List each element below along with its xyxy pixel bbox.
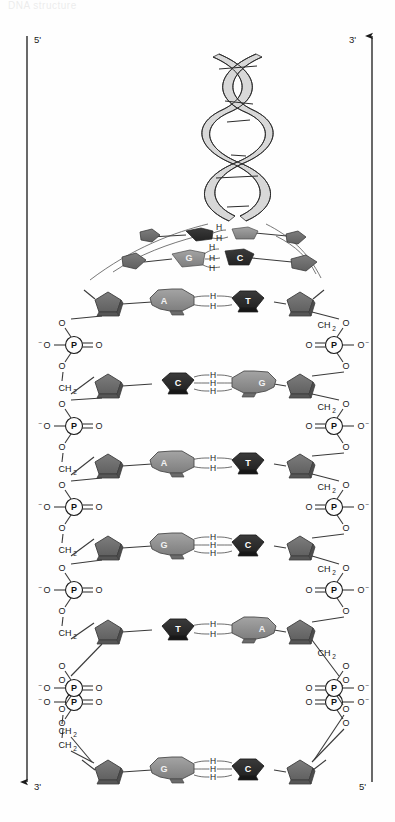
hbond-curve	[194, 375, 208, 377]
sugar-bevel	[289, 780, 311, 784]
sugar-bevel	[97, 780, 119, 784]
glycosidic-bond	[274, 630, 286, 632]
methylene-subscript: 2	[73, 745, 77, 752]
base-bevel	[168, 390, 188, 394]
phosphate-bond	[337, 573, 343, 582]
oxygen-anion-label: O	[43, 683, 50, 693]
dna-double-helix	[90, 54, 321, 280]
oxygen-label: O	[58, 563, 65, 573]
oxygen-label: O	[305, 585, 312, 595]
phosphate-group-right: CH2P−OOOO	[305, 556, 369, 622]
anion-sign: −	[366, 501, 370, 508]
phosphate-bond	[337, 409, 343, 418]
backbone-bond	[71, 398, 102, 400]
base-bevel	[170, 555, 184, 559]
base-letter: A	[161, 458, 168, 468]
glycosidic-bond	[274, 464, 286, 466]
base-letter: A	[161, 296, 168, 306]
oxygen-label: O	[95, 697, 102, 707]
oxygen-anion-label: O	[43, 421, 50, 431]
hbond-curve	[218, 296, 232, 297]
phosphate-label: P	[71, 502, 77, 512]
hydrogen-bond-label: H	[210, 386, 216, 396]
anion-sign: −	[39, 339, 43, 346]
hbond-curve	[218, 375, 232, 377]
oxygen-anion-label: O	[357, 421, 364, 431]
base-letter: C	[175, 378, 182, 388]
phosphate-bond	[65, 710, 71, 719]
phosphate-bond	[65, 515, 71, 524]
hbond-curve	[194, 458, 208, 459]
left-axis: 5' 3'	[27, 34, 41, 792]
backbone-bond	[312, 474, 339, 481]
sugar-bevel	[289, 474, 311, 478]
oxygen-label: O	[95, 340, 102, 350]
hbond-curve	[194, 761, 208, 763]
phosphate-bond	[65, 409, 71, 418]
oxygen-anion-label: O	[357, 683, 364, 693]
base-shape	[150, 757, 194, 779]
anion-sign: −	[366, 682, 370, 689]
hydrogen-bond-label: H	[210, 772, 216, 782]
anion-sign: −	[39, 584, 43, 591]
oxygen-label: O	[58, 675, 65, 685]
methylene-subscript: 2	[332, 487, 336, 494]
sugar-pentagon	[287, 454, 313, 474]
right-axis-bottom-label: 5'	[359, 781, 366, 792]
phosphate-bond	[65, 598, 71, 607]
backbone-bond	[62, 534, 63, 543]
sugar-pentagon	[286, 231, 306, 244]
base-shape	[232, 371, 276, 393]
backbone-bond	[312, 729, 344, 762]
methylene-subscript: 2	[332, 569, 336, 576]
phosphate-label: P	[331, 697, 337, 707]
oxygen-label: O	[58, 704, 65, 714]
anion-sign: −	[366, 584, 370, 591]
base-letter: T	[245, 296, 251, 306]
base-bevel	[170, 473, 184, 477]
sugar-pentagon	[95, 374, 121, 394]
methylene-subscript: 2	[332, 325, 336, 332]
base-pair-row: ATHH	[95, 451, 315, 478]
glycosidic-bond	[274, 770, 286, 772]
glycosidic-bond	[274, 546, 286, 548]
phosphate-label: P	[71, 585, 77, 595]
base-letter: C	[237, 253, 244, 263]
sugar-pentagon	[95, 292, 121, 312]
oxygen-label: O	[305, 340, 312, 350]
sugar-pentagon	[287, 374, 313, 394]
methylene-label: CH	[59, 464, 72, 474]
hbond-curve	[194, 775, 208, 777]
sugar-pentagon	[287, 536, 313, 556]
backbone-bond	[71, 377, 94, 394]
glycosidic-bond	[122, 546, 152, 548]
sugar-bevel	[289, 394, 311, 398]
hbond-curve	[194, 633, 208, 634]
glycosidic-bond	[122, 464, 152, 466]
sugar-bevel	[97, 640, 119, 644]
oxygen-anion-label: O	[43, 502, 50, 512]
methylene-label: CH	[59, 740, 72, 750]
backbone-bond	[312, 453, 344, 456]
base-shape	[150, 451, 194, 473]
phosphate-group-right: CH2P−OOOO	[305, 394, 369, 456]
backbone-bond	[71, 539, 94, 556]
base-letter: G	[185, 253, 192, 263]
methylene-label: CH	[318, 320, 331, 330]
base-pair-row: ATHH	[95, 289, 315, 316]
glycosidic-bond	[274, 384, 286, 386]
hbond-curve	[194, 305, 208, 306]
oxygen-label: O	[342, 675, 349, 685]
hbond-curve	[194, 624, 208, 625]
sugar-bevel	[289, 312, 311, 316]
base-letter: G	[160, 764, 167, 774]
hbond-curve	[218, 633, 232, 634]
sugar-pentagon	[140, 229, 160, 242]
hbond-curve	[218, 467, 232, 468]
backbone-bond	[312, 556, 339, 564]
phosphate-label: P	[331, 340, 337, 350]
backbone-bond	[84, 290, 95, 299]
oxygen-label: O	[342, 442, 349, 452]
anion-sign: −	[366, 420, 370, 427]
transition-row-2: G C H H H	[122, 242, 317, 273]
